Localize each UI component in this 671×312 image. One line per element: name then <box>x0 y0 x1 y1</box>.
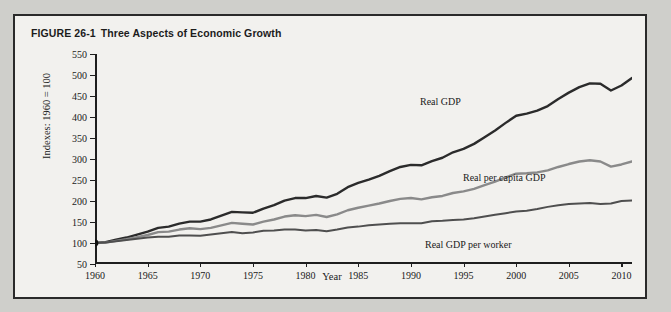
x-tick-label: 2005 <box>559 270 579 281</box>
series-label-real-gdp: Real GDP <box>420 96 461 107</box>
origin-marker-dot <box>95 240 98 247</box>
figure-number: FIGURE 26-1 <box>31 27 96 39</box>
x-tick-label: 1960 <box>85 270 105 281</box>
origin-marker-group <box>95 240 98 247</box>
x-tick-label: 1985 <box>348 270 368 281</box>
series-line-real-per-capita-gdp <box>95 160 632 243</box>
series-label-real-per-capita-gdp: Real per capita GDP <box>463 172 545 183</box>
y-axis-title: Indexes: 1960 = 100 <box>41 73 52 159</box>
x-tick-label: 1980 <box>296 270 316 281</box>
series-group <box>95 78 632 243</box>
x-tick-label: 2010 <box>611 270 631 281</box>
y-tick-label: 300 <box>72 154 87 165</box>
figure-title: FIGURE 26-1Three Aspects of Economic Gro… <box>31 27 281 39</box>
figure-title-text: Three Aspects of Economic Growth <box>96 27 282 39</box>
y-tick-label: 550 <box>72 49 87 60</box>
figure-frame: FIGURE 26-1Three Aspects of Economic Gro… <box>13 14 647 299</box>
series-label-real-gdp-per-worker: Real GDP per worker <box>425 239 512 250</box>
y-tick-label: 200 <box>72 196 87 207</box>
y-tick-label: 500 <box>72 70 87 81</box>
y-tick-label: 50 <box>77 259 87 270</box>
x-tick-label: 1970 <box>190 270 210 281</box>
y-tick-label: 450 <box>72 91 87 102</box>
plot-area: 50100150200250300350400450500550 1960196… <box>95 54 632 264</box>
y-tick-label: 350 <box>72 133 87 144</box>
series-line-real-gdp <box>95 78 632 243</box>
y-tick-label: 100 <box>72 238 87 249</box>
x-axis-title: Year <box>15 271 649 282</box>
chart-plot <box>95 54 632 264</box>
y-tick-label: 400 <box>72 112 87 123</box>
x-tick-label: 1990 <box>401 270 421 281</box>
y-tick-label: 250 <box>72 175 87 186</box>
x-tick-label: 1975 <box>243 270 263 281</box>
y-tick-label: 150 <box>72 217 87 228</box>
x-tick-label: 2000 <box>506 270 526 281</box>
x-tick-label: 1995 <box>454 270 474 281</box>
x-tick-label: 1965 <box>138 270 158 281</box>
